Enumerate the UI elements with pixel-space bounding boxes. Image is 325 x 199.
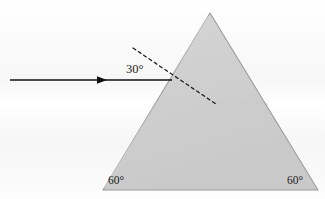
- physics-figure: 30° 60° 60°: [0, 0, 325, 199]
- incidence-angle-label: 30°: [126, 62, 144, 77]
- prism-shape: [103, 13, 318, 190]
- base-angle-left-label: 60°: [108, 174, 124, 186]
- incident-ray-arrowhead: [97, 76, 107, 84]
- figure-vector-canvas: [0, 0, 325, 199]
- base-angle-right-label: 60°: [287, 174, 303, 186]
